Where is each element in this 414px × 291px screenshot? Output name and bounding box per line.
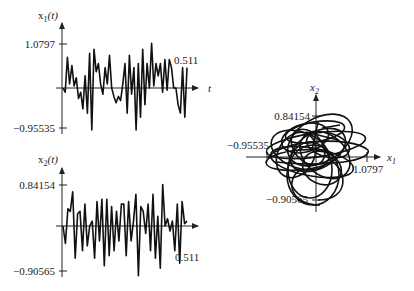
x2-axis-label: x2 bbox=[309, 81, 319, 96]
t-axis-label: t bbox=[208, 82, 212, 94]
plot-x1-vs-t: x1(t) 1.0797 −0.95535 t 0.511 bbox=[13, 9, 212, 134]
y-axis-label: x2(t) bbox=[38, 153, 58, 168]
xtick-left-label: −0.95535 bbox=[227, 139, 269, 151]
ytick-bottom-label: −0.90565 bbox=[13, 265, 55, 277]
ytick-top-label: 1.0797 bbox=[25, 38, 56, 50]
x2-trace bbox=[63, 185, 187, 276]
figure: x1(t) 1.0797 −0.95535 t 0.511 x2(t) 0.84… bbox=[0, 0, 414, 291]
x1-trace bbox=[63, 43, 187, 130]
ytick-bottom-label: −0.95535 bbox=[13, 122, 55, 134]
ytick-top-label: 0.84154 bbox=[274, 110, 310, 122]
plot-x2-vs-t: x2(t) 0.84154 −0.90565 0.511 bbox=[13, 153, 199, 277]
plot-phase-portrait: x2 x1 0.84154 −0.90565 −0.95535 1.0797 bbox=[227, 81, 396, 212]
t-end-label: 0.511 bbox=[174, 54, 198, 66]
x1-axis-label: x1 bbox=[386, 151, 396, 166]
xtick-right-label: 1.0797 bbox=[353, 163, 384, 175]
ytick-top-label: 0.84154 bbox=[19, 179, 55, 191]
y-axis-label: x1(t) bbox=[38, 9, 58, 24]
